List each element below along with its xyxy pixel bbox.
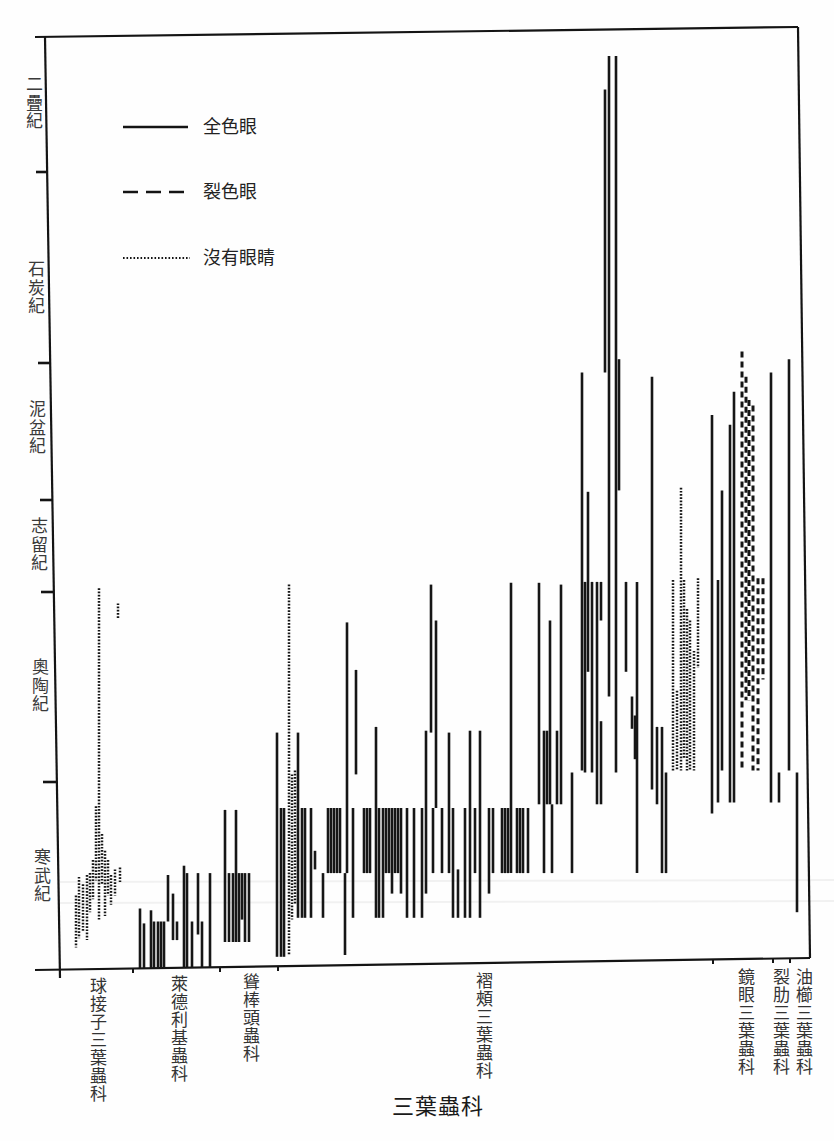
family-label-phacopid: 鏡眼三葉蟲科 xyxy=(736,968,753,1076)
family-label-proetid: 油櫛三葉蟲科 xyxy=(794,968,811,1076)
y-axis xyxy=(45,37,60,978)
frame-right xyxy=(798,27,810,958)
period-label-ordovician: 奧陶紀 xyxy=(30,658,47,714)
legend-label-full-color-eye: 全色眼 xyxy=(203,117,257,137)
period-label-silurian: 志留紀 xyxy=(29,517,46,573)
family-label-redlichiid: 萊德利基蟲科 xyxy=(169,975,186,1083)
family-bars-3 xyxy=(277,56,698,957)
trilobite-range-chart: 全色眼 裂色眼 沒有眼睛 寒武紀 奧陶紀 志留紀 泥盆紀 石炭紀 二疊紀 球接子… xyxy=(0,0,834,1141)
family-bars-5 xyxy=(771,373,779,803)
family-label-lichid: 裂肋三葉蟲科 xyxy=(771,968,788,1076)
family-label-agnostid: 球接子三葉蟲科 xyxy=(88,977,105,1103)
scan-streak xyxy=(60,901,834,903)
family-bars-4 xyxy=(712,352,763,814)
period-label-devonian: 泥盆紀 xyxy=(27,400,44,456)
legend-swatches xyxy=(123,127,190,258)
family-bars-0 xyxy=(76,588,120,947)
family-label-corynexochid: 聳棒頭蟲科 xyxy=(241,973,258,1063)
legend-label-no-eye: 沒有眼睛 xyxy=(203,248,275,268)
family-label-ptychopariid: 褶頰三葉蟲科 xyxy=(474,972,491,1080)
period-label-cambrian: 寒武紀 xyxy=(32,848,49,904)
scan-streak xyxy=(60,880,834,882)
family-bars-6 xyxy=(789,359,797,912)
family-bars-2 xyxy=(225,810,249,942)
range-bars xyxy=(76,56,797,968)
legend-label-split-color-eye: 裂色眼 xyxy=(203,182,257,202)
chart-plot-area xyxy=(0,0,834,1141)
period-label-permian: 二疊紀 xyxy=(24,75,41,131)
x-axis-title: 三葉蟲科 xyxy=(392,1095,484,1119)
period-label-carboniferous: 石炭紀 xyxy=(26,260,43,316)
frame-top xyxy=(35,27,798,37)
